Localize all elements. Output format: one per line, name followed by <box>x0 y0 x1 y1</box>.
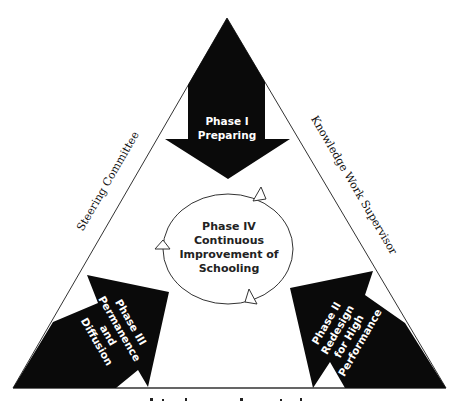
phase1-arrow-shape <box>165 18 290 179</box>
phase4-line4: Schooling <box>199 262 260 275</box>
phase1-arrow: Phase I Preparing <box>165 18 290 179</box>
cycle-arrowhead-left-icon <box>155 240 170 249</box>
phase4-line2: Continuous <box>194 234 265 247</box>
cycle-arrowhead-bottom-icon <box>245 289 257 304</box>
phase4-cycle: Phase IV Continuous Improvement of Schoo… <box>155 187 293 304</box>
phase3-arrow: Phase III Permanence and Diffusion <box>13 275 169 388</box>
right-side-label: Knowledge Work Supervisor <box>308 114 400 258</box>
phase1-title: Phase I <box>205 115 248 127</box>
phase2-arrow: Phase II Redesign for High Performance <box>290 271 446 388</box>
left-side-label: Steering Committee <box>74 129 142 233</box>
phase1-subtitle: Preparing <box>198 129 256 141</box>
cycle-arrowhead-top-right-icon <box>253 187 266 201</box>
phase4-title: Phase IV <box>202 220 256 233</box>
phase4-line3: Improvement of <box>179 248 278 261</box>
phase-triangle-diagram: Phase I Preparing Phase III Permanence a… <box>0 0 457 401</box>
